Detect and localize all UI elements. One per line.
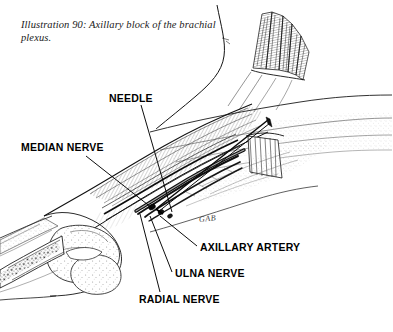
label-radial-nerve: RADIAL NERVE [139,293,220,305]
pectoralis-muscle-bands [251,12,309,80]
label-ulna-nerve: ULNA NERVE [175,267,245,279]
nerve-section-3 [167,213,173,219]
bundle-overlay-tone [92,204,142,230]
humeral-condyle [71,255,121,295]
caption-line-1: Illustration 90: Axillary block of the [21,19,177,30]
humerus-group [0,204,142,300]
label-needle: NEEDLE [109,92,153,104]
artist-signature: GAB [199,213,217,224]
leader-ulna-nerve [150,216,172,272]
leader-radial-nerve [140,214,160,292]
leader-axillary-artery [160,216,197,246]
illustration-page: Illustration 90: Axillary block of the b… [0,0,393,332]
figure-caption: Illustration 90: Axillary block of the b… [21,18,231,44]
anatomical-illustration [0,0,393,332]
label-median-nerve: MEDIAN NERVE [21,141,104,153]
label-axillary-artery: AXILLARY ARTERY [200,241,300,253]
